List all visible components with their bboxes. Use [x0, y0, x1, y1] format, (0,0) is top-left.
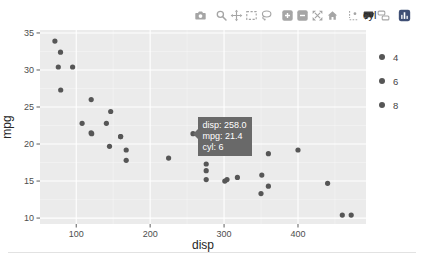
box-select-icon — [245, 9, 258, 22]
modebar-camera-button[interactable] — [194, 8, 208, 23]
modebar-hover-compare-button[interactable] — [377, 8, 391, 23]
data-point[interactable] — [349, 213, 354, 218]
legend-marker-icon — [379, 102, 385, 108]
plotly-chart: 100200300400101520253035 mpg disp cyl 46… — [0, 0, 424, 272]
data-point[interactable] — [295, 147, 300, 152]
modebar-pan-button[interactable] — [230, 8, 244, 23]
modebar-zoom-out-button[interactable] — [296, 8, 310, 23]
legend-item-label: 6 — [393, 76, 398, 87]
legend-marker-icon — [379, 78, 385, 84]
zoom-in-icon — [281, 9, 294, 22]
data-point[interactable] — [258, 191, 263, 196]
camera-icon — [194, 9, 207, 22]
legend-item-label: 4 — [393, 52, 398, 63]
data-point[interactable] — [325, 181, 330, 186]
data-point[interactable] — [80, 121, 85, 126]
modebar-plotly-logo-button[interactable] — [398, 8, 412, 23]
modebar — [188, 8, 413, 23]
data-point[interactable] — [52, 39, 57, 44]
data-point[interactable] — [58, 87, 63, 92]
y-axis-title: mpg — [0, 87, 14, 167]
data-point[interactable] — [204, 177, 209, 182]
y-tick-label: 30 — [24, 65, 34, 75]
data-point[interactable] — [266, 151, 271, 156]
lasso-select-icon — [260, 9, 273, 22]
tooltip-line: cyl: 6 — [203, 142, 247, 153]
zoom-out-icon — [296, 9, 309, 22]
modebar-spikelines-button[interactable] — [347, 8, 361, 23]
modebar-box-select-button[interactable] — [245, 8, 259, 23]
modebar-reset-axes-button[interactable] — [326, 8, 340, 23]
data-point[interactable] — [166, 156, 171, 161]
modebar-group — [194, 8, 209, 23]
data-point[interactable] — [107, 144, 112, 149]
data-point[interactable] — [266, 184, 271, 189]
legend-marker-icon — [379, 54, 385, 60]
data-point[interactable] — [124, 158, 129, 163]
plotly-logo-icon — [398, 9, 411, 22]
pan-icon — [230, 9, 243, 22]
data-point[interactable] — [104, 121, 109, 126]
x-axis-title: disp — [40, 238, 366, 252]
tooltip-line: disp: 258.0 — [203, 120, 247, 131]
data-point[interactable] — [89, 131, 94, 136]
hover-tooltip: disp: 258.0 mpg: 21.4 cyl: 6 — [198, 117, 252, 156]
y-tick-label: 35 — [24, 28, 34, 38]
legend-item-4[interactable]: 4 — [379, 45, 398, 69]
tooltip-line: mpg: 21.4 — [203, 131, 247, 142]
y-tick-label: 10 — [24, 213, 34, 223]
legend-item-8[interactable]: 8 — [379, 93, 398, 117]
legend-item-label: 8 — [393, 100, 398, 111]
modebar-zoom-in-button[interactable] — [281, 8, 295, 23]
y-tick-label: 20 — [24, 139, 34, 149]
modebar-group — [215, 8, 275, 23]
y-tick-label: 15 — [24, 176, 34, 186]
modebar-lasso-select-button[interactable] — [260, 8, 274, 23]
data-point[interactable] — [204, 168, 209, 173]
data-point[interactable] — [124, 147, 129, 152]
modebar-autoscale-button[interactable] — [311, 8, 325, 23]
data-point[interactable] — [89, 97, 94, 102]
autoscale-icon — [311, 9, 324, 22]
modebar-group — [281, 8, 341, 23]
data-point[interactable] — [204, 161, 209, 166]
legend-title: cyl — [363, 9, 376, 21]
data-point[interactable] — [118, 134, 123, 139]
zoom-icon — [215, 9, 228, 22]
reset-axes-icon — [326, 9, 339, 22]
data-point[interactable] — [222, 179, 227, 184]
spikelines-icon — [347, 9, 360, 22]
hover-compare-icon — [377, 9, 390, 22]
y-tick-label: 25 — [24, 102, 34, 112]
data-point[interactable] — [108, 109, 113, 114]
modebar-group — [398, 8, 413, 23]
data-point[interactable] — [259, 173, 264, 178]
legend: 468 — [379, 45, 398, 117]
data-point[interactable] — [340, 213, 345, 218]
data-point[interactable] — [235, 175, 240, 180]
divider — [8, 252, 416, 253]
modebar-zoom-button[interactable] — [215, 8, 229, 23]
legend-item-6[interactable]: 6 — [379, 69, 398, 93]
data-point[interactable] — [56, 64, 61, 69]
data-point[interactable] — [70, 64, 75, 69]
data-point[interactable] — [58, 50, 63, 55]
